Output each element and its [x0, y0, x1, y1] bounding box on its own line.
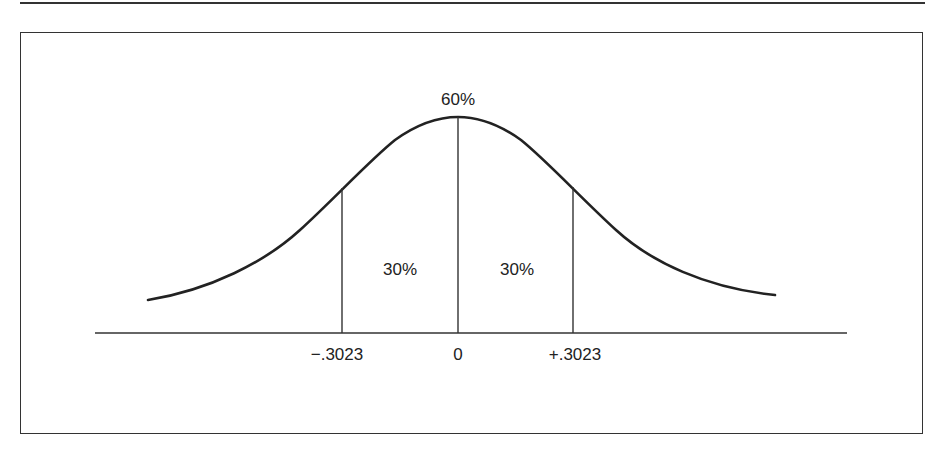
bell-curve-figure [0, 0, 945, 464]
right-region-label: 30% [500, 260, 534, 280]
tick-label-negative: −.3023 [311, 345, 363, 365]
peak-label: 60% [441, 90, 475, 110]
tick-label-positive: +.3023 [549, 345, 601, 365]
normal-curve [148, 117, 775, 300]
tick-label-zero: 0 [453, 345, 462, 365]
left-region-label: 30% [383, 260, 417, 280]
